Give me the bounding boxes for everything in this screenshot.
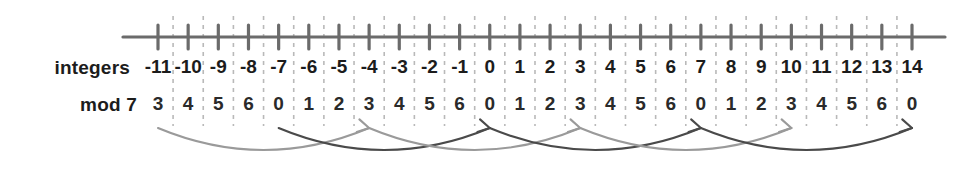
integer-tick-label: 14 — [892, 56, 932, 78]
mod-arc-arrowhead — [571, 119, 581, 128]
mod-arc-arrowhead — [902, 119, 912, 128]
mod-arc-arrowhead — [691, 119, 701, 128]
number-line-figure: integers mod 7 -11-10-9-8-7-6-5-4-3-2-10… — [0, 0, 973, 187]
mod-arc-arrowhead — [782, 119, 792, 128]
mod-arc-arrowhead — [359, 119, 369, 128]
mod-arcs-group — [158, 119, 912, 150]
mod-arc-arrowhead — [480, 119, 490, 128]
mod7-value-label: 0 — [892, 93, 932, 115]
mod7-row-label: mod 7 — [0, 94, 137, 116]
integers-row-label: integers — [0, 57, 130, 79]
